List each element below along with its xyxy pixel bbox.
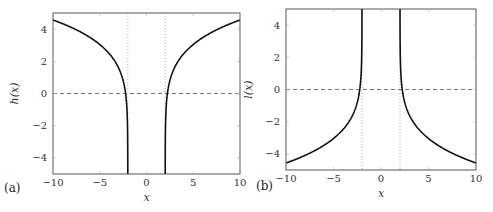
y-tick-label: −2 [265, 116, 280, 127]
x-axis-label: x [143, 191, 150, 204]
x-tick-label: 5 [425, 173, 431, 184]
x-tick-label: −5 [92, 177, 107, 188]
y-tick-label: 0 [41, 88, 47, 99]
panel-label: (b) [256, 179, 273, 193]
figure: −10−50510−4−2024xh(x)(a) −10−50510−4−202… [0, 0, 493, 212]
y-tick-label: −2 [32, 120, 47, 131]
y-axis-label: h(x) [8, 83, 21, 105]
y-tick-label: 4 [41, 24, 47, 35]
function-curve [400, 0, 476, 163]
y-tick-label: −4 [32, 152, 47, 163]
x-tick-label: 5 [190, 177, 196, 188]
panel-label: (a) [4, 181, 21, 195]
y-tick-label: 2 [41, 56, 47, 67]
y-tick-label: 2 [274, 52, 280, 63]
x-tick-label: 0 [143, 177, 149, 188]
x-axis-label: x [378, 187, 385, 200]
function-curve [165, 20, 240, 212]
y-tick-label: 4 [274, 20, 280, 31]
y-tick-label: −4 [265, 148, 280, 159]
y-axis-label: l(x) [242, 80, 255, 98]
x-tick-label: −10 [275, 173, 296, 184]
x-tick-label: −10 [42, 177, 63, 188]
function-curve [286, 0, 362, 163]
plot-b: −10−50510−4−2024xl(x)(b) [242, 0, 482, 200]
x-tick-label: 10 [234, 177, 247, 188]
x-tick-label: 0 [378, 173, 384, 184]
function-curve [53, 20, 128, 212]
x-tick-label: −5 [326, 173, 341, 184]
x-tick-label: 10 [470, 173, 483, 184]
plot-a: −10−50510−4−2024xh(x)(a) [4, 13, 246, 212]
y-tick-label: 0 [274, 84, 280, 95]
